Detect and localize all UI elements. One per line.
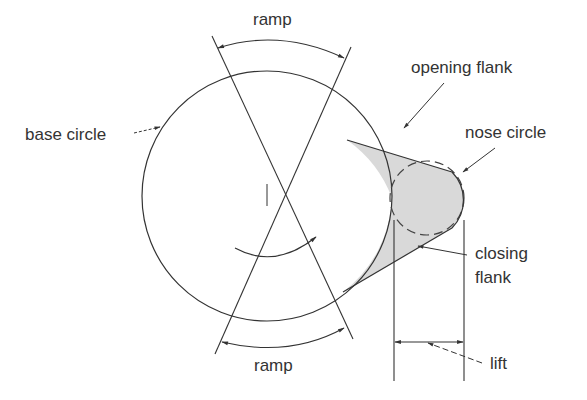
rotation-arrow	[235, 237, 316, 257]
lift-label: lift	[490, 354, 507, 374]
closing-flank-label-line1: closing	[475, 244, 528, 264]
ramp-top-arc	[218, 40, 344, 58]
opening-flank-leader	[404, 83, 444, 128]
ramp-bottom-label: ramp	[254, 356, 293, 376]
base-circle-label: base circle	[25, 125, 106, 145]
ramp-line-1	[212, 36, 353, 339]
ramp-top-label: ramp	[253, 10, 292, 30]
ramp-line-2	[215, 47, 351, 354]
cam-lobe-shading	[343, 140, 463, 292]
base-circle-leader	[134, 127, 160, 133]
lift-leader	[428, 343, 482, 363]
ramp-bottom-arc	[222, 328, 344, 348]
closing-flank-leader	[418, 246, 467, 255]
opening-flank-label: opening flank	[411, 58, 512, 78]
closing-flank-label-line2: flank	[475, 268, 511, 288]
nose-circle-label: nose circle	[465, 123, 546, 143]
nose-circle-leader	[463, 148, 495, 172]
